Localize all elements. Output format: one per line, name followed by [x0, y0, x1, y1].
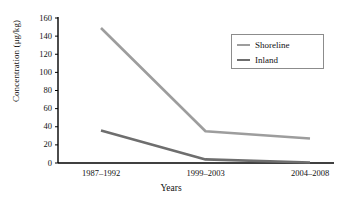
y-axis-tick-label: 20 [26, 139, 52, 149]
x-axis-tick-label: 1999–2003 [161, 168, 251, 178]
y-axis-tick-label: 60 [26, 103, 52, 113]
legend-label-shoreline: Shoreline [255, 40, 290, 50]
y-axis-tick-label: 0 [26, 158, 52, 168]
chart-legend: Shoreline Inland [231, 34, 324, 69]
x-axis-tick-label: 1987–1992 [56, 168, 146, 178]
y-axis-tick-label: 160 [26, 13, 52, 23]
y-axis-tick-label: 40 [26, 121, 52, 131]
y-axis-title: Concentration (μg/kg) [11, 1, 21, 121]
y-axis-tick-label: 100 [26, 67, 52, 77]
legend-label-inland: Inland [255, 55, 278, 65]
legend-swatch-shoreline [237, 44, 250, 46]
legend-item-inland: Inland [237, 53, 278, 67]
x-axis-title: Years [0, 183, 342, 193]
x-axis-tick-label: 2004–2008 [265, 168, 342, 178]
legend-swatch-inland [237, 59, 250, 61]
line-chart: Concentration (μg/kg) 020406080100120140… [0, 0, 342, 203]
y-axis-tick-label: 80 [26, 85, 52, 95]
legend-item-shoreline: Shoreline [237, 38, 290, 52]
y-axis-tick-label: 140 [26, 31, 52, 41]
y-axis-tick-label: 120 [26, 49, 52, 59]
